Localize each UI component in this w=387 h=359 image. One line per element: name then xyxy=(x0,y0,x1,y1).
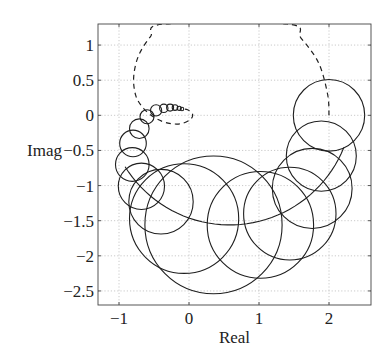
uncertainty-circle xyxy=(130,119,150,139)
uncertainty-circle xyxy=(244,167,336,260)
nyquist-chart: −101210.50−0.5−1−1.5−2−2.5 Real Imag xyxy=(0,0,387,359)
nominal-dashed-curve xyxy=(134,22,329,124)
x-tick-label: 1 xyxy=(255,309,264,328)
x-tick-label: 2 xyxy=(325,309,334,328)
uncertainty-circle xyxy=(272,148,352,228)
y-tick-label: 1 xyxy=(86,36,95,55)
y-tick-label: 0.5 xyxy=(73,71,94,90)
y-axis-label: Imag xyxy=(27,141,62,160)
y-tick-label: −1 xyxy=(76,177,94,196)
x-tick-label: −1 xyxy=(110,309,128,328)
y-tick-label: −2 xyxy=(76,247,94,266)
y-tick-label: 0 xyxy=(86,106,95,125)
uncertainty-circle xyxy=(130,164,239,274)
plot-area xyxy=(116,22,365,293)
series-group xyxy=(116,22,365,293)
axis-ticks: −101210.50−0.5−1−1.5−2−2.5 xyxy=(63,24,371,328)
y-tick-label: −1.5 xyxy=(63,212,94,231)
grid-lines xyxy=(98,24,371,305)
y-tick-label: −2.5 xyxy=(63,282,94,301)
uncertainty-circle xyxy=(129,169,193,234)
y-tick-label: −0.5 xyxy=(63,141,94,160)
uncertainty-circle xyxy=(120,130,147,157)
axes-frame xyxy=(98,24,371,305)
uncertainty-circle xyxy=(140,110,154,124)
x-tick-label: 0 xyxy=(185,309,194,328)
x-axis-label: Real xyxy=(219,328,250,347)
